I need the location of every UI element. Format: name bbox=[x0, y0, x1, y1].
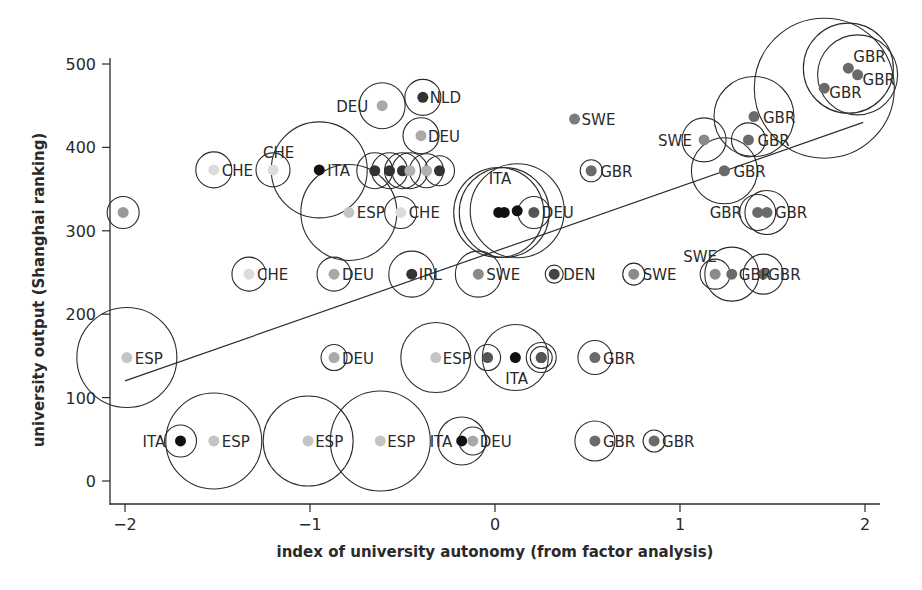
data-point bbox=[377, 100, 388, 111]
data-point bbox=[208, 164, 219, 175]
point-label: CHE bbox=[257, 266, 288, 284]
point-label: ITA bbox=[430, 433, 453, 451]
x-axis: −2−1012 bbox=[110, 504, 880, 534]
data-point bbox=[417, 92, 428, 103]
point-label: GBR bbox=[763, 109, 795, 127]
data-point bbox=[456, 435, 467, 446]
data-point bbox=[329, 269, 340, 280]
point-label: CHE bbox=[222, 162, 253, 180]
data-point bbox=[510, 352, 521, 363]
data-point bbox=[761, 207, 772, 218]
point-label: DEU bbox=[342, 266, 374, 284]
data-point bbox=[467, 435, 478, 446]
point-label: GBR bbox=[600, 163, 632, 181]
point-label: DEN bbox=[563, 266, 595, 284]
data-point bbox=[404, 165, 415, 176]
point-label: SWE bbox=[683, 248, 717, 266]
point-label: IRL bbox=[419, 266, 443, 284]
point-label: ESP bbox=[387, 433, 415, 451]
point-label: SWE bbox=[643, 266, 677, 284]
point-label: GBR bbox=[603, 350, 635, 368]
data-point bbox=[589, 352, 600, 363]
point-label: SWE bbox=[486, 266, 520, 284]
x-ticks: −2−1012 bbox=[113, 504, 870, 534]
data-point bbox=[343, 207, 354, 218]
point-label: GBR bbox=[733, 163, 765, 181]
data-point bbox=[628, 269, 639, 280]
point-label: DEU bbox=[428, 128, 460, 146]
point-label: ITA bbox=[327, 162, 350, 180]
data-point bbox=[528, 207, 539, 218]
y-tick-label: 400 bbox=[65, 138, 96, 157]
data-point bbox=[243, 269, 254, 280]
data-point bbox=[384, 165, 395, 176]
data-point bbox=[719, 165, 730, 176]
data-point bbox=[208, 435, 219, 446]
point-label: DEU bbox=[342, 350, 374, 368]
point-label: GBR bbox=[662, 433, 694, 451]
x-tick-label: 1 bbox=[675, 515, 685, 534]
scatter-chart: CHECHEITAESPDEUNLDDEUCHEITADEUSWEGBRSWEG… bbox=[0, 0, 922, 590]
point-label: GBR bbox=[829, 84, 861, 102]
data-point bbox=[549, 269, 560, 280]
x-tick-label: 2 bbox=[860, 515, 870, 534]
data-point bbox=[726, 269, 737, 280]
y-tick-label: 0 bbox=[86, 472, 96, 491]
data-point bbox=[434, 165, 445, 176]
point-label: GBR bbox=[775, 204, 807, 222]
data-point bbox=[395, 207, 406, 218]
x-axis-label: index of university autonomy (from facto… bbox=[277, 543, 714, 561]
point-label: GBR bbox=[710, 204, 742, 222]
y-tick-label: 300 bbox=[65, 222, 96, 241]
data-point bbox=[268, 164, 279, 175]
data-point bbox=[699, 134, 710, 145]
point-label: CHE bbox=[263, 144, 294, 162]
point-label: ITA bbox=[505, 370, 528, 388]
point-label: DEU bbox=[480, 433, 512, 451]
point-label: DEU bbox=[542, 204, 574, 222]
data-point bbox=[586, 165, 597, 176]
point-label: ESP bbox=[315, 433, 343, 451]
data-point bbox=[512, 205, 523, 216]
data-point bbox=[589, 435, 600, 446]
point-label: GBR bbox=[603, 433, 635, 451]
data-point bbox=[482, 352, 493, 363]
data-point bbox=[536, 352, 547, 363]
point-label: DEU bbox=[336, 98, 368, 116]
data-point bbox=[473, 269, 484, 280]
y-tick-label: 100 bbox=[65, 389, 96, 408]
point-label: ESP bbox=[222, 433, 250, 451]
data-point bbox=[852, 69, 863, 80]
data-point bbox=[121, 352, 132, 363]
point-label: GBR bbox=[863, 71, 895, 89]
data-point bbox=[499, 207, 510, 218]
y-tick-label: 500 bbox=[65, 55, 96, 74]
point-label: CHE bbox=[409, 204, 440, 222]
point-label: SWE bbox=[582, 111, 616, 129]
data-point bbox=[843, 63, 854, 74]
data-point bbox=[329, 352, 340, 363]
point-label: NLD bbox=[430, 89, 461, 107]
point-label: SWE bbox=[658, 132, 692, 150]
point-label: ESP bbox=[357, 204, 385, 222]
data-point bbox=[375, 435, 386, 446]
data-point bbox=[406, 269, 417, 280]
data-point bbox=[749, 111, 760, 122]
x-tick-label: 0 bbox=[490, 515, 500, 534]
point-label: ESP bbox=[135, 350, 163, 368]
y-axis: 0100200300400500 bbox=[65, 55, 110, 505]
data-point bbox=[710, 269, 721, 280]
point-label: ITA bbox=[489, 170, 512, 188]
point-label: GBR bbox=[768, 266, 800, 284]
data-point bbox=[421, 165, 432, 176]
data-point bbox=[314, 164, 325, 175]
data-point bbox=[303, 435, 314, 446]
y-axis-label: university output (Shanghai ranking) bbox=[30, 133, 48, 448]
point-label: GBR bbox=[739, 266, 771, 284]
data-point bbox=[569, 114, 580, 125]
x-tick-label: −2 bbox=[113, 515, 137, 534]
data-point bbox=[819, 83, 830, 94]
point-label: GBR bbox=[853, 48, 885, 66]
data-point bbox=[118, 207, 129, 218]
data-point bbox=[416, 130, 427, 141]
